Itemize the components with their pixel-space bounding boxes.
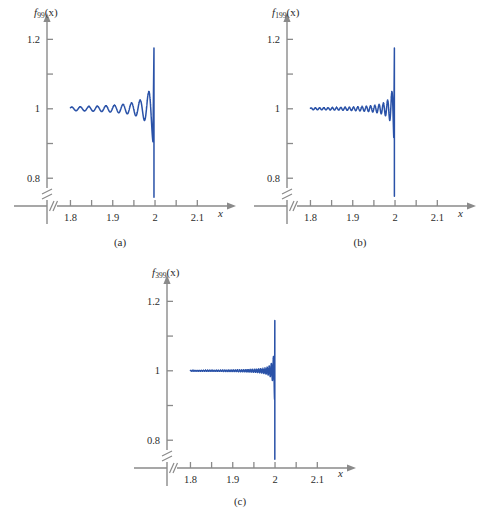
x-tick-label: 1.8 [304, 212, 317, 223]
x-tick-label: 2.1 [431, 212, 444, 223]
y-tick-label: 0.8 [147, 435, 160, 446]
plot-area-a: 1.81.922.10.811.2 [0, 0, 240, 262]
x-axis-name-a: x [218, 207, 223, 219]
y-axis-title-c: f399(x) [152, 266, 180, 280]
y-axis-title-subscript-b: 199 [275, 11, 286, 20]
y-axis-title-b: f199(x) [272, 6, 300, 20]
panel-caption-a: (a) [0, 236, 240, 248]
y-axis-title-subscript-c: 399 [155, 271, 166, 280]
gibbs-curve [190, 320, 274, 459]
chart-svg-c: 1.81.922.10.811.2 [120, 262, 360, 502]
chart-svg-b: 1.81.922.10.811.2 [240, 0, 480, 240]
x-tick-label: 2.1 [191, 212, 204, 223]
gibbs-curve [310, 48, 394, 196]
gibbs-curve [70, 48, 154, 197]
y-tick-label: 1.2 [267, 34, 280, 45]
y-tick-label: 0.8 [267, 173, 280, 184]
y-tick-label: 1 [275, 103, 280, 114]
panel-caption-b: (b) [240, 236, 480, 248]
x-tick-label: 1.8 [184, 474, 197, 485]
chart-svg-a: 1.81.922.10.811.2 [0, 0, 240, 240]
panel-b: 1.81.922.10.811.2 f199(x) x (b) [240, 0, 480, 262]
y-tick-label: 1.2 [147, 296, 160, 307]
plot-area-b: 1.81.922.10.811.2 [240, 0, 480, 262]
panel-c: 1.81.922.10.811.2 f399(x) x (c) [120, 262, 360, 521]
y-axis-title-subscript-a: 99 [37, 11, 45, 20]
x-tick-label: 2.1 [311, 474, 324, 485]
x-tick-label: 1.9 [226, 474, 239, 485]
x-tick-label: 2 [272, 474, 277, 485]
y-axis-title-a: f99(x) [34, 6, 58, 20]
x-axis-name-b: x [458, 207, 463, 219]
y-tick-label: 1 [155, 365, 160, 376]
y-axis-title-arg-c: (x) [166, 266, 179, 278]
y-axis-title-arg-a: (x) [45, 6, 58, 18]
plot-area-c: 1.81.922.10.811.2 [120, 262, 360, 521]
x-tick-label: 1.9 [106, 212, 119, 223]
panel-caption-c: (c) [120, 495, 360, 507]
y-tick-label: 1 [35, 103, 40, 114]
panel-a: 1.81.922.10.811.2 f99(x) x (a) [0, 0, 240, 262]
y-axis-title-arg-b: (x) [286, 6, 299, 18]
x-tick-label: 1.8 [64, 212, 77, 223]
x-axis-name-c: x [338, 467, 343, 479]
y-tick-label: 1.2 [27, 34, 40, 45]
x-tick-label: 1.9 [346, 212, 359, 223]
y-tick-label: 0.8 [27, 173, 40, 184]
x-tick-label: 2 [152, 212, 157, 223]
x-tick-label: 2 [392, 212, 397, 223]
